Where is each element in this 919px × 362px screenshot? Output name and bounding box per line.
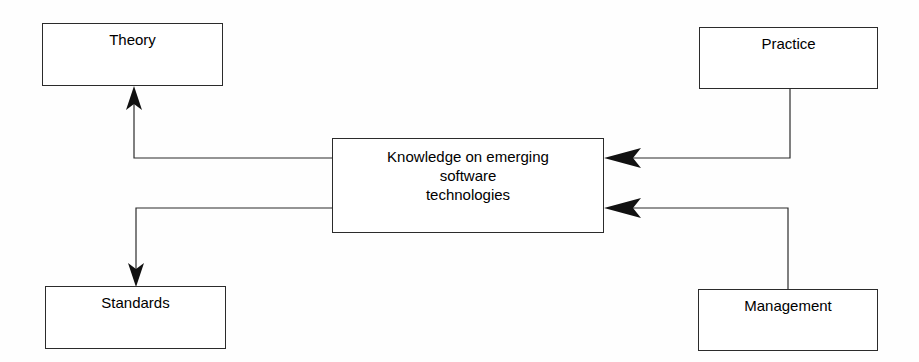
node-knowledge-center[interactable]: Knowledge on emerging software technolog… — [332, 138, 604, 233]
node-theory-label: Theory — [43, 30, 222, 49]
node-practice[interactable]: Practice — [699, 27, 878, 89]
node-knowledge-center-label: Knowledge on emerging software technolog… — [333, 147, 603, 205]
node-standards-label: Standards — [46, 293, 225, 312]
node-theory[interactable]: Theory — [42, 23, 223, 86]
connector-management-to-center — [604, 198, 788, 289]
connector-center-to-theory — [126, 86, 332, 158]
node-standards[interactable]: Standards — [45, 286, 226, 349]
connector-practice-to-center — [604, 89, 790, 168]
node-management[interactable]: Management — [698, 289, 878, 351]
node-practice-label: Practice — [700, 34, 877, 53]
connector-center-to-standards — [128, 208, 332, 287]
diagram-canvas: Theory Practice Knowledge on emerging so… — [0, 0, 919, 362]
node-management-label: Management — [699, 296, 877, 315]
